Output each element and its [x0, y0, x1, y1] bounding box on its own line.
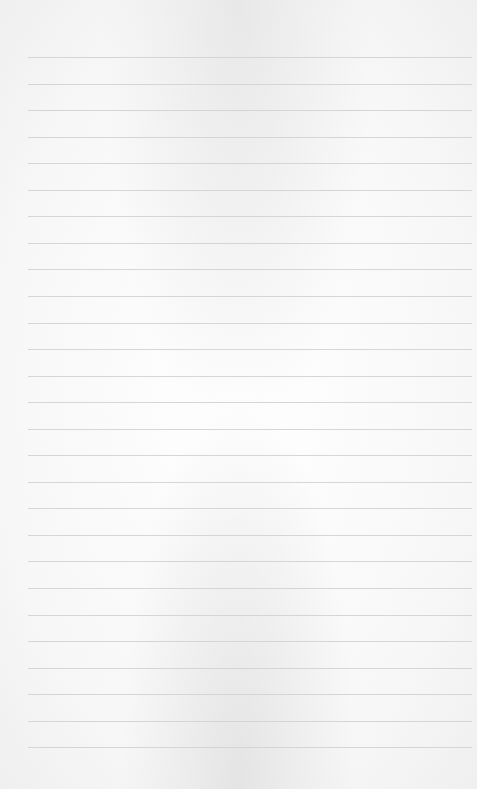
ruled-line	[28, 455, 472, 456]
ruled-line	[28, 163, 472, 164]
ruled-line	[28, 243, 472, 244]
ruled-line	[28, 110, 472, 111]
ruled-line	[28, 190, 472, 191]
ruled-line	[28, 323, 472, 324]
ruled-line	[28, 721, 472, 722]
ruled-line	[28, 561, 472, 562]
ruled-line	[28, 349, 472, 350]
ruled-line	[28, 694, 472, 695]
ruled-line	[28, 137, 472, 138]
ruled-line	[28, 57, 472, 58]
ruled-line	[28, 535, 472, 536]
ruled-line	[28, 269, 472, 270]
ruled-line	[28, 668, 472, 669]
ruled-line	[28, 482, 472, 483]
ruled-line	[28, 402, 472, 403]
ruled-line	[28, 508, 472, 509]
ruled-line	[28, 747, 472, 748]
ruled-line	[28, 84, 472, 85]
ruled-line	[28, 641, 472, 642]
lined-paper-sheet	[0, 0, 477, 789]
ruled-line	[28, 296, 472, 297]
ruled-line	[28, 615, 472, 616]
ruled-line	[28, 376, 472, 377]
ruled-line	[28, 429, 472, 430]
ruled-line	[28, 216, 472, 217]
ruled-line	[28, 588, 472, 589]
